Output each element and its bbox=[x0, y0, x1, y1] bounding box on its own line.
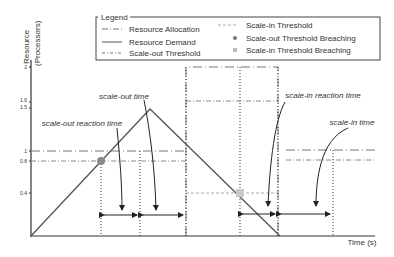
x-axis-label: Time (s) bbox=[347, 238, 376, 247]
resource-demand bbox=[31, 109, 280, 236]
scale-out-threshold bbox=[31, 101, 375, 161]
scale-out-breach-marker bbox=[97, 157, 105, 165]
y-tick-1: 1 bbox=[24, 148, 27, 154]
y-tick-0-4: 0.4 bbox=[20, 190, 27, 196]
legend: Legend Resource Allocation Resource Dema… bbox=[96, 13, 380, 60]
legend-item-scalein-threshold: Scale-in Threshold bbox=[246, 21, 313, 30]
y-axis-unit: (Processors) bbox=[33, 20, 42, 66]
legend-item-scaleout-breach: Scale-out Threshold Breaching bbox=[246, 34, 356, 43]
square-marker-icon bbox=[233, 48, 237, 52]
legend-item-allocation: Resource Allocation bbox=[129, 25, 200, 34]
label-scale-out-reaction-time: scale-out reaction time bbox=[42, 119, 123, 128]
y-tick-1-6: 1.6 bbox=[20, 97, 27, 103]
circle-marker-icon bbox=[233, 36, 237, 40]
y-tick-1-5: 1.5 bbox=[20, 104, 27, 110]
label-scale-in-time: scale-in time bbox=[330, 118, 375, 127]
legend-item-scaleout-threshold: Scale-out Threshold bbox=[129, 49, 200, 58]
y-tick-0-8: 0.8 bbox=[20, 158, 27, 164]
scale-in-breach-marker bbox=[236, 189, 244, 197]
y-axis-label: Resource bbox=[22, 29, 31, 64]
label-scale-out-time: scale-out time bbox=[99, 92, 149, 101]
legend-title: Legend bbox=[101, 13, 128, 22]
interval-arrows bbox=[104, 214, 330, 215]
legend-item-demand: Resource Demand bbox=[129, 38, 196, 47]
diagram-canvas: Legend Resource Allocation Resource Dema… bbox=[0, 0, 394, 257]
label-scale-in-reaction-time: scale-in reaction time bbox=[285, 91, 361, 100]
legend-item-scalein-breach: Scale-in Threshold Breaching bbox=[246, 46, 351, 55]
